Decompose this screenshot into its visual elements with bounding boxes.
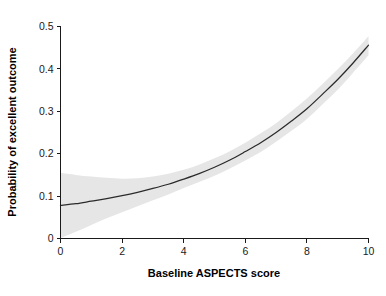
x-tick-label: 8 [304, 245, 310, 257]
x-tick-label: 6 [242, 245, 248, 257]
x-tick-label: 10 [363, 245, 375, 257]
x-axis-title: Baseline ASPECTS score [148, 267, 280, 279]
chart-figure: 00.10.20.30.40.5 0246810 Baseline ASPECT… [0, 0, 386, 296]
y-tick-label: 0.3 [39, 105, 54, 117]
probability-vs-aspects-line-chart: 00.10.20.30.40.5 0246810 Baseline ASPECT… [0, 0, 386, 296]
y-axis-title: Probability of excellent outcome [6, 47, 18, 216]
y-tick-label: 0.2 [39, 147, 54, 159]
x-tick-label: 0 [58, 245, 64, 257]
x-tick-label: 2 [119, 245, 125, 257]
y-tick-label: 0.5 [39, 20, 54, 32]
x-tick-label: 4 [181, 245, 187, 257]
y-tick-label: 0.4 [39, 63, 54, 75]
y-tick-label: 0 [48, 232, 54, 244]
y-tick-label: 0.1 [39, 190, 54, 202]
